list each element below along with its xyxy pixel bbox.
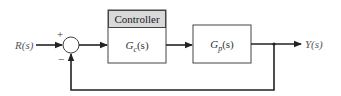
summing-junction xyxy=(63,37,79,53)
plant-block: Gp(s) xyxy=(193,25,251,63)
tf-arg: (s) xyxy=(137,39,149,52)
input-label: R(s) xyxy=(14,39,34,52)
minus-sign: − xyxy=(58,53,64,65)
tf-main: G xyxy=(125,39,133,51)
controller-block: Controller Gc(s) xyxy=(108,10,166,63)
tf-arg: (s) xyxy=(222,38,234,51)
controller-header-label: Controller xyxy=(114,13,160,25)
block-diagram: R(s) + − Controller Gc(s) Gp(s) Y(s) xyxy=(0,0,341,96)
tf-main: G xyxy=(210,38,218,50)
plus-sign: + xyxy=(57,28,63,40)
output-label: Y(s) xyxy=(305,38,323,51)
